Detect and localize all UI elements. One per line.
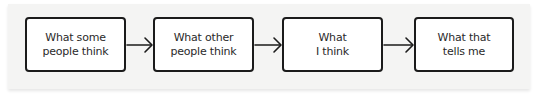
arrow-right-icon bbox=[254, 35, 283, 55]
arrow-right-icon bbox=[383, 35, 415, 55]
node-label-line2: people think bbox=[42, 45, 108, 59]
node-label-line1: What bbox=[316, 31, 349, 45]
node-label-line2: tells me bbox=[438, 45, 491, 59]
node-what-that-tells-me: What that tells me bbox=[414, 17, 514, 72]
node-label-line2: I think bbox=[316, 45, 349, 59]
node-label-line1: What that bbox=[438, 31, 491, 45]
node-label-line1: What some bbox=[42, 31, 108, 45]
node-what-some-people-think: What some people think bbox=[25, 17, 126, 72]
node-label-line1: What other bbox=[170, 31, 236, 45]
node-what-i-think: What I think bbox=[282, 17, 383, 72]
node-what-other-people-think: What other people think bbox=[153, 17, 254, 72]
node-label-line2: people think bbox=[170, 45, 236, 59]
arrow-right-icon bbox=[126, 35, 154, 55]
